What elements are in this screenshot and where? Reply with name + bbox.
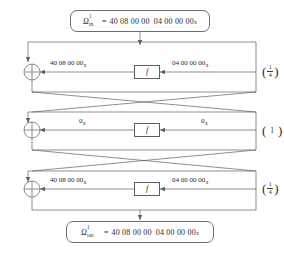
round2-f-box[interactable]: f [134, 123, 160, 137]
output-difference-text: Ω1out = 40 08 00 00 04 00 00 00x [81, 228, 199, 237]
round1-f-label: f [146, 68, 148, 76]
input-value-left: 40 08 00 00 [110, 17, 150, 26]
input-equals-sign: = [102, 17, 107, 26]
round3-right-label: 04 00 00 00x [170, 177, 210, 186]
differential-characteristic-diagram: Ω1in = 40 08 00 00 04 00 00 00x f 40 08 … [0, 0, 284, 254]
input-hex-subscript: x [194, 19, 197, 25]
round1-right-label: 04 00 00 00x [170, 60, 210, 69]
round2-bottom-rail [32, 138, 256, 150]
output-value-right: 04 00 00 00 [156, 228, 196, 237]
round3-f-label: f [146, 185, 148, 193]
round1-f-box[interactable]: f [134, 65, 160, 79]
round3-f-box[interactable]: f [134, 182, 160, 196]
round3-probability: ( 1 4 ) [262, 181, 279, 195]
round1-left-label: 40 08 00 00x [48, 60, 88, 69]
round3-left-label: 40 08 00 00x [48, 177, 88, 186]
output-equals-sign: = [104, 228, 109, 237]
omega-out-symbol: Ω1out [81, 228, 87, 237]
input-value-right: 04 00 00 00 [154, 17, 194, 26]
round1-probability: ( 1 4 ) [262, 64, 279, 78]
scan-artifact: · [6, 42, 8, 48]
input-difference-text: Ω1in = 40 08 00 00 04 00 00 00x [83, 17, 197, 26]
round1-probability-fraction: 1 4 [267, 64, 273, 78]
input-difference-box: Ω1in = 40 08 00 00 04 00 00 00x [70, 10, 210, 32]
output-hex-subscript: x [196, 230, 199, 236]
round3-probability-fraction: 1 4 [267, 181, 273, 195]
round2-probability-value: 1 [270, 127, 274, 135]
round3-bottom-rail [32, 197, 256, 210]
round1-bottom-rail [32, 80, 256, 92]
output-difference-box: Ω1out = 40 08 00 00 04 00 00 00x [66, 221, 214, 243]
output-value-left: 40 08 00 00 [112, 228, 152, 237]
omega-in-symbol: Ω1in [83, 17, 89, 26]
round2-f-label: f [146, 126, 148, 134]
round2-probability: ( 1 ) [262, 124, 282, 137]
round2-left-label: 0x [77, 118, 87, 127]
round2-right-label: 0x [199, 118, 209, 127]
